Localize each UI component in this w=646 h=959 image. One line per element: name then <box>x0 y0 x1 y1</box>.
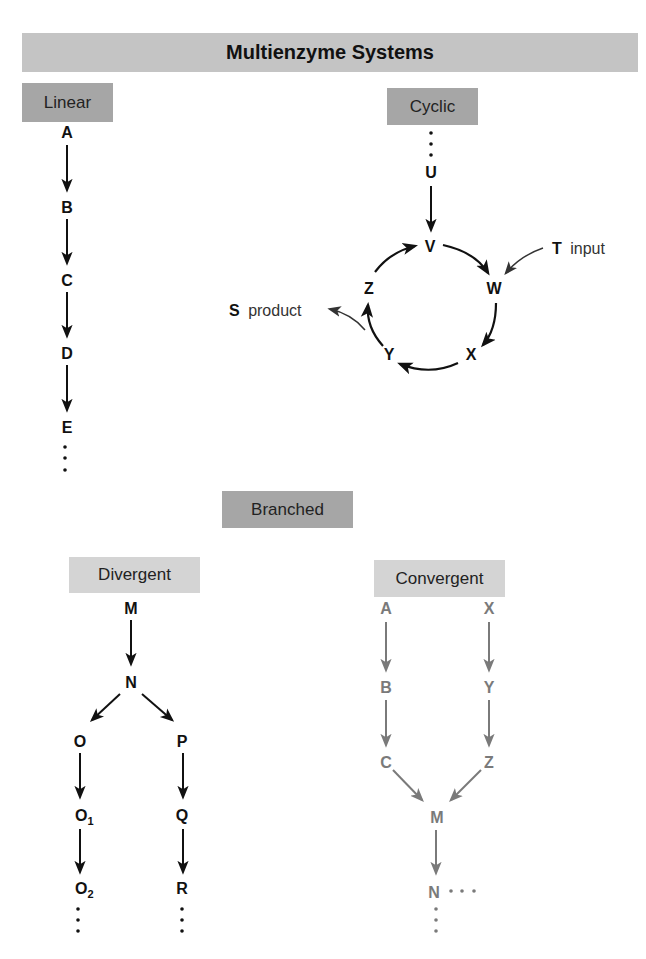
div-node-o2: O2 <box>75 880 94 900</box>
divergent-pathway: M N O P O1 Q O2 R <box>74 600 188 933</box>
arrow-z-m <box>451 770 481 800</box>
cyclic-node-w: W <box>486 280 502 297</box>
arrow-z-s-product <box>330 309 365 330</box>
div-node-p: P <box>177 733 188 750</box>
div-node-o: O <box>74 733 86 750</box>
linear-node-e: E <box>62 419 73 436</box>
cyclic-node-v: V <box>425 238 436 255</box>
arrow-c-m <box>393 770 422 800</box>
arrow-v-w <box>443 245 488 273</box>
arrow-n-p <box>142 694 172 720</box>
conv-node-n: N <box>428 884 440 901</box>
linear-pathway: A B C D E <box>61 124 73 472</box>
pathway-diagram: A B C D E U V W X Y Z <box>0 0 646 959</box>
divergent-continuation-dots <box>76 907 184 933</box>
arrow-x-y <box>400 363 458 370</box>
arrow-n-o <box>92 694 120 720</box>
conv-node-y: Y <box>484 679 495 696</box>
linear-node-b: B <box>61 199 73 216</box>
linear-continuation-dots <box>63 445 67 472</box>
cyclic-pathway: U V W X Y Z T input S product <box>229 131 605 370</box>
cyclic-output: S product <box>229 302 302 319</box>
div-node-r: R <box>176 880 188 897</box>
arrow-y-z <box>368 305 383 346</box>
linear-node-d: D <box>61 345 73 362</box>
cyclic-node-z: Z <box>364 280 374 297</box>
div-node-n: N <box>125 674 137 691</box>
conv-node-m: M <box>430 809 443 826</box>
div-node-m: M <box>124 600 137 617</box>
linear-node-c: C <box>61 272 73 289</box>
linear-node-a: A <box>61 124 73 141</box>
arrow-z-v <box>375 246 415 272</box>
convergent-pathway: A X B Y C Z M N <box>380 600 494 933</box>
cyclic-entry-dots <box>429 131 433 157</box>
cyclic-input: T input <box>552 240 605 257</box>
cyclic-node-x: X <box>466 346 477 363</box>
conv-node-c: C <box>380 754 392 771</box>
conv-node-b: B <box>380 679 392 696</box>
conv-node-x: X <box>484 600 495 617</box>
conv-node-z: Z <box>484 754 494 771</box>
conv-node-a: A <box>380 600 392 617</box>
div-node-o1: O1 <box>75 807 94 827</box>
arrow-w-x <box>483 303 496 345</box>
cyclic-node-u: U <box>425 164 437 181</box>
convergent-continuation-dots <box>434 889 476 933</box>
arrow-t-input <box>506 248 543 273</box>
div-node-q: Q <box>176 807 188 824</box>
cyclic-node-y: Y <box>384 346 395 363</box>
